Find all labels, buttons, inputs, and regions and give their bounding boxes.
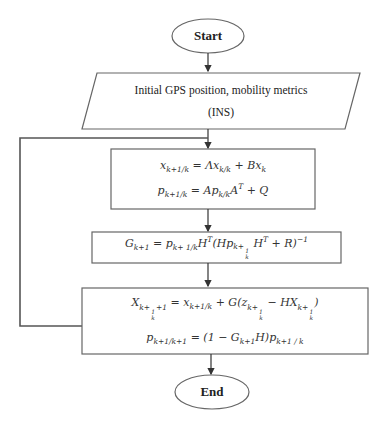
state-prediction-equation: xk+1/k = Λxk/k + Bxk bbox=[160, 159, 266, 174]
end-node: End bbox=[175, 375, 249, 409]
predict-node: xk+1/k = Λxk/k + Bxk pk+1/k = Apk/kAT + … bbox=[111, 149, 315, 209]
covariance-prediction-equation: pk+1/k = Apk/kAT + Q bbox=[158, 182, 269, 199]
kalman-gain-equation: Gk+1 = pk+ 1/kHT(Hpk+1k HT + R)−1 bbox=[125, 235, 308, 261]
input-line1: Initial GPS position, mobility metrics bbox=[135, 79, 308, 101]
fraction: 1k bbox=[151, 309, 155, 321]
state-update-equation: Xk+1k+1 = xk+1/k + G(zk+1k − HXk+1k) bbox=[131, 296, 318, 320]
gain-node: Gk+1 = pk+ 1/kHT(Hpk+1k HT + R)−1 bbox=[92, 232, 341, 263]
fraction: 1k bbox=[309, 309, 313, 321]
fraction: 1k bbox=[259, 309, 263, 321]
input-line2: (INS) bbox=[208, 101, 234, 123]
fraction: 1k bbox=[245, 248, 249, 260]
covariance-update-equation: pk+1/k+1 = (1 − Gk+1H)pk+1 / k bbox=[146, 331, 303, 346]
input-node: Initial GPS position, mobility metrics (… bbox=[90, 74, 352, 128]
end-label: End bbox=[200, 384, 223, 400]
start-node: Start bbox=[172, 19, 244, 53]
update-node: Xk+1k+1 = xk+1/k + G(zk+1k − HXk+1k) pk+… bbox=[82, 288, 368, 354]
flowchart-connectors bbox=[0, 0, 385, 427]
start-label: Start bbox=[194, 28, 222, 44]
